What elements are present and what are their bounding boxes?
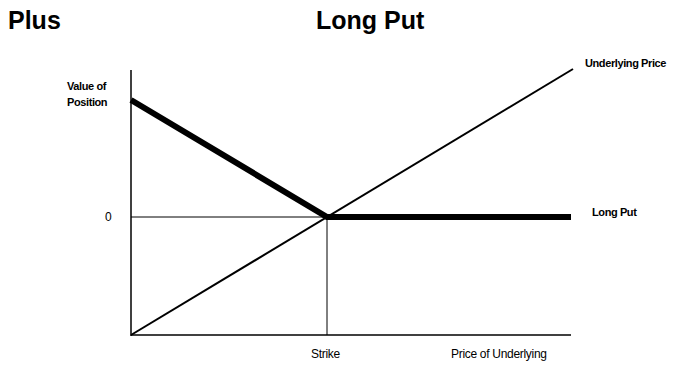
long-put-label: Long Put (592, 206, 636, 218)
underlying-price-label: Underlying Price (585, 57, 666, 69)
payoff-chart (0, 0, 686, 366)
long-put-line (131, 100, 571, 217)
x-axis-label: Price of Underlying (451, 347, 547, 361)
zero-tick-label: 0 (105, 210, 111, 224)
underlying-price-line (131, 69, 573, 335)
y-axis-label-line1: Value of (67, 80, 106, 92)
strike-tick-label: Strike (311, 347, 340, 361)
y-axis-label-line2: Position (67, 96, 107, 108)
